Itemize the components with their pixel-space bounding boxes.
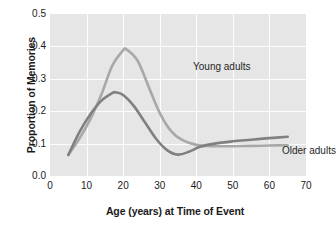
x-tick-label: 40 bbox=[183, 181, 209, 191]
series-label-older-adults: Older adults bbox=[282, 145, 336, 156]
x-tick-label: 0 bbox=[37, 181, 63, 191]
x-tick-label: 30 bbox=[147, 181, 173, 191]
x-tick-label: 20 bbox=[110, 181, 136, 191]
plot-area: Young adults Older adults bbox=[50, 14, 306, 176]
series-label-young-adults: Young adults bbox=[193, 61, 250, 72]
x-tick-label: 10 bbox=[74, 181, 100, 191]
x-axis-title: Age (years) at Time of Event bbox=[44, 205, 306, 217]
series-curves bbox=[50, 14, 306, 176]
x-tick-label: 70 bbox=[293, 181, 319, 191]
x-tick-label: 60 bbox=[256, 181, 282, 191]
y-tick-label: 0.4 bbox=[16, 41, 46, 51]
y-tick-label: 0.5 bbox=[16, 9, 46, 19]
x-axis-tick-labels: 010203040506070 bbox=[50, 181, 306, 195]
y-tick-label: 0.0 bbox=[16, 171, 46, 181]
y-tick-label: 0.2 bbox=[16, 106, 46, 116]
x-tick-label: 50 bbox=[220, 181, 246, 191]
y-tick-label: 0.3 bbox=[16, 74, 46, 84]
y-tick-label: 0.1 bbox=[16, 139, 46, 149]
y-axis-tick-labels: 0.00.10.20.30.40.5 bbox=[12, 14, 46, 176]
